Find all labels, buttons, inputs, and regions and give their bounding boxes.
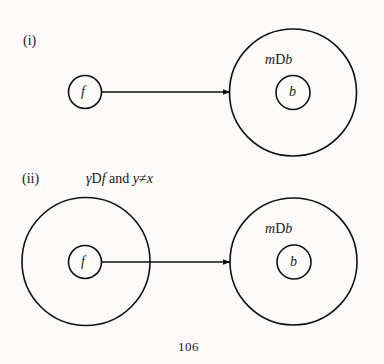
part-ii-mdb-label: mDb xyxy=(265,221,292,237)
mdb-obj: b xyxy=(285,221,292,236)
mdb-rel: D xyxy=(275,221,285,236)
part-ii-condition: γDf and y≠x xyxy=(86,171,153,187)
part-i-f-label: f xyxy=(81,84,85,100)
cond-conj: and xyxy=(106,171,133,186)
cond-var3: x xyxy=(147,171,153,186)
page-number: 106 xyxy=(178,339,199,355)
part-ii-f-label: f xyxy=(81,254,85,270)
part-i-diagram xyxy=(69,29,357,156)
part-i-mdb-label: mDb xyxy=(265,52,292,68)
mdb-var: m xyxy=(265,52,275,67)
mdb-var: m xyxy=(265,221,275,236)
diagram xyxy=(0,0,384,364)
part-i-b-label: b xyxy=(289,84,296,100)
mdb-obj: b xyxy=(285,52,292,67)
part-ii-f-node xyxy=(69,246,102,279)
page: (i) f mDb b (ii) γDf and y≠x f mDb b 106 xyxy=(0,0,384,364)
cond-neq: ≠ xyxy=(139,171,147,186)
part-ii-label: (ii) xyxy=(22,171,39,187)
cond-rel: D xyxy=(92,171,102,186)
part-i-label: (i) xyxy=(23,33,36,49)
part-ii-diagram xyxy=(22,198,357,326)
part-i-f-node xyxy=(69,76,102,109)
mdb-rel: D xyxy=(275,52,285,67)
part-ii-b-label: b xyxy=(290,254,297,270)
